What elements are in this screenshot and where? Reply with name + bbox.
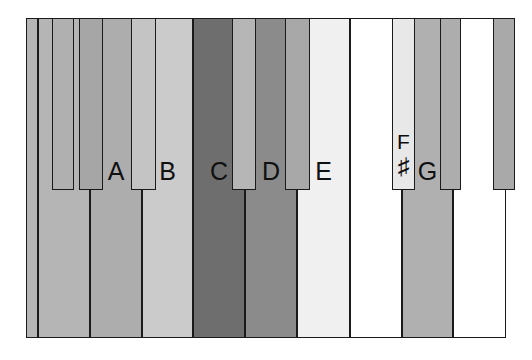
black-key-3[interactable] [232, 18, 256, 190]
black-key-4[interactable] [285, 18, 310, 190]
piano-keyboard: GABCDEGF♯ [0, 0, 532, 360]
black-key-f-sharp[interactable]: F♯ [392, 18, 415, 190]
black-key-6[interactable] [440, 18, 461, 190]
black-key-letter-label: F [393, 131, 414, 152]
black-key-7[interactable] [493, 18, 515, 190]
black-key-2[interactable] [131, 18, 156, 190]
white-key-0[interactable] [26, 18, 38, 338]
black-key-0[interactable] [52, 18, 74, 190]
black-key-1[interactable] [79, 18, 103, 190]
black-key-sharp-icon: ♯ [393, 155, 414, 178]
